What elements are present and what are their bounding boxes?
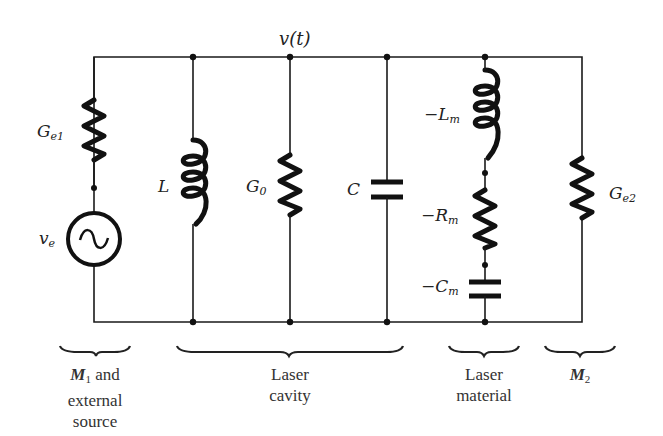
group-label-m1: M1 and external source [45,364,145,432]
group-cavity-line1: Laser [240,364,340,385]
label-cm-sub: m [448,285,458,298]
resistor-rm [475,190,495,282]
label-c: C [347,179,360,199]
group-m2-line1: M2 [530,364,630,390]
group-material-line1: Laser [434,364,534,385]
label-ge1: Ge1 [37,121,64,143]
group-label-cavity: Laser cavity [240,364,340,406]
group-label-material: Laser material [434,364,534,406]
label-rm: −Rm [421,205,458,227]
brace-material [449,346,519,356]
label-g0-main: G [246,176,260,196]
label-ge2-main: G [609,183,623,203]
label-g0: G0 [246,176,267,198]
resistor-g0 [280,57,300,322]
label-ge1-sub: e1 [51,130,65,143]
label-rm-sub: m [448,214,458,227]
group-label-m2: M2 [530,364,630,390]
label-cm-main: −C [421,276,448,296]
brace-m2 [545,346,615,356]
label-cm: −Cm [421,276,459,298]
top-rail [94,57,582,188]
bottom-rail [94,218,582,322]
label-ge1-main: G [37,121,51,141]
label-ve-main: v [39,228,49,248]
brace-m1 [60,346,130,356]
resistor-ge2 [572,158,592,218]
group-m1-line1: M1 and [45,364,145,390]
capacitor-c [371,57,403,322]
node-label-vt: v(t) [279,28,310,49]
capacitor-cm [469,282,501,322]
brace-cavity [177,346,403,356]
label-g0-sub: 0 [260,185,267,198]
junction-dot [91,185,97,191]
group-material-line2: material [434,385,534,406]
label-lm-sub: m [450,113,460,126]
label-ge2: Ge2 [609,183,636,205]
ac-source-ve [68,213,120,265]
label-ve-sub: e [49,237,56,250]
group-m1-line3: source [45,411,145,432]
label-ve: ve [39,228,55,250]
label-lm-main: −L [424,104,450,124]
label-lm: −Lm [424,104,460,126]
label-rm-main: −R [421,205,448,225]
label-ge2-sub: e2 [623,192,637,205]
group-m1-line2: external [45,390,145,411]
label-l: L [158,176,169,196]
inductor-lm [475,57,498,190]
group-cavity-line2: cavity [240,385,340,406]
inductor-l [183,57,206,322]
